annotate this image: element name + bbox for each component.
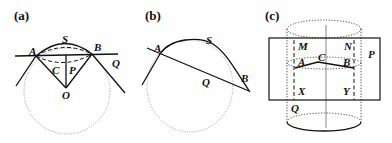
panel-c-point-C: C: [318, 51, 326, 63]
panel-c-point-M: M: [297, 40, 309, 52]
panel-b-point-S: S: [206, 34, 212, 46]
panel-b: (b) A S Q B: [142, 8, 250, 132]
panel-a-point-Q: Q: [112, 57, 120, 69]
panel-c: (c) M N P A C B X Y Q: [265, 8, 380, 131]
panel-c-top-ellipse: [287, 20, 361, 38]
panel-a-point-A: A: [28, 45, 36, 57]
panel-c-point-X: X: [297, 85, 306, 97]
panel-c-point-P: P: [368, 48, 375, 60]
panel-c-point-Q: Q: [291, 102, 299, 114]
panel-c-label: (c): [265, 8, 279, 23]
panel-b-point-Q: Q: [202, 76, 210, 88]
panel-c-plane-P: [269, 38, 380, 100]
panel-b-point-B: B: [240, 72, 248, 84]
panel-c-bottom-ellipse-front: [287, 122, 361, 131]
panel-b-label: (b): [145, 8, 161, 23]
panel-b-secant-line: [147, 48, 249, 91]
panel-a-point-B: B: [93, 41, 101, 53]
panel-b-point-A: A: [153, 42, 161, 54]
panel-a-point-C: C: [52, 64, 60, 76]
panel-c-bottom-ellipse-back: [287, 113, 361, 122]
panel-c-point-A: A: [297, 56, 305, 68]
figure-canvas: (a) A B S Q C P O (b) A S Q B (c): [0, 0, 392, 143]
panel-c-point-N: N: [343, 40, 353, 52]
panel-a-point-S: S: [62, 33, 68, 45]
panel-a: (a) A B S Q C P O: [14, 8, 125, 134]
panel-c-point-B: B: [342, 56, 350, 68]
panel-a-point-P: P: [69, 64, 76, 76]
panel-a-point-O: O: [62, 89, 70, 101]
panel-a-radius-OA: [36, 56, 66, 88]
panel-a-label: (a): [14, 8, 29, 23]
